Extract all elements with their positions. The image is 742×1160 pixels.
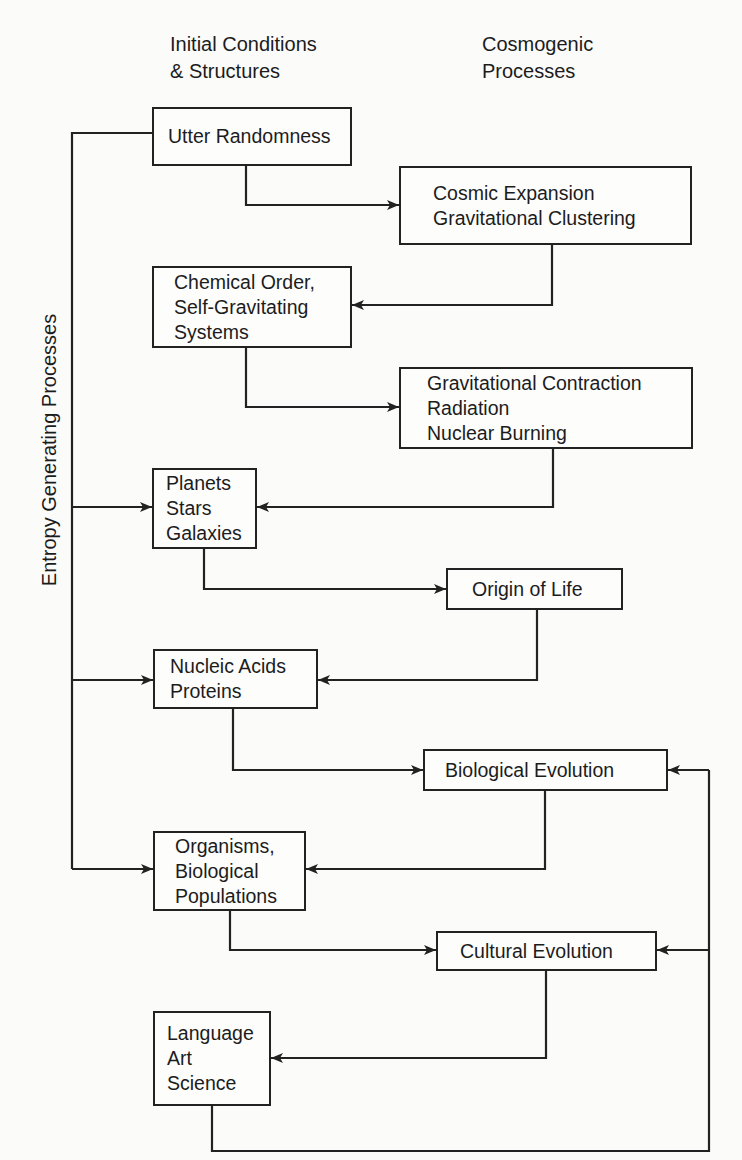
arrow-bioevolution-to-organisms (306, 791, 545, 869)
box-label: Organisms, Biological Populations (175, 834, 277, 909)
box-biological-evolution: Biological Evolution (423, 749, 668, 791)
box-gravitational-contraction: Gravitational Contraction Radiation Nucl… (399, 367, 693, 449)
arrow-cultural-to-language (271, 971, 546, 1058)
box-nucleic-acids-proteins: Nucleic Acids Proteins (153, 649, 318, 709)
arrow-chemical-to-gravcontraction (246, 348, 399, 407)
box-label: Nucleic Acids Proteins (170, 654, 286, 704)
box-chemical-order: Chemical Order, Self-Gravitating Systems (152, 266, 352, 348)
box-label: Cultural Evolution (460, 939, 613, 964)
box-label: Biological Evolution (445, 758, 614, 783)
box-utter-randomness: Utter Randomness (152, 107, 352, 166)
box-organisms-populations: Organisms, Biological Populations (153, 831, 306, 911)
arrow-cosmic-to-chemical (352, 245, 552, 305)
arrow-nucleic-to-bioevolution (233, 709, 423, 770)
arrow-gravcontraction-to-planets (257, 449, 553, 507)
box-label: Planets Stars Galaxies (166, 471, 242, 546)
box-label: Chemical Order, Self-Gravitating Systems (174, 270, 315, 345)
box-label: Origin of Life (472, 577, 583, 602)
box-label: Cosmic Expansion Gravitational Clusterin… (433, 181, 636, 231)
box-label: Utter Randomness (168, 124, 331, 149)
arrow-origin-to-nucleic (318, 610, 537, 680)
arrow-organisms-to-cultural (230, 911, 436, 950)
box-cultural-evolution: Cultural Evolution (436, 931, 657, 971)
box-origin-of-life: Origin of Life (446, 568, 623, 610)
box-label: Gravitational Contraction Radiation Nucl… (427, 371, 642, 446)
arrow-utter-to-cosmic (246, 166, 399, 205)
box-label: Language Art Science (167, 1021, 254, 1096)
box-cosmic-expansion: Cosmic Expansion Gravitational Clusterin… (399, 166, 692, 245)
arrow-planets-to-origin (204, 549, 446, 589)
box-language-art-science: Language Art Science (153, 1011, 271, 1106)
spine-line (72, 133, 152, 869)
box-planets-stars-galaxies: Planets Stars Galaxies (152, 468, 257, 549)
